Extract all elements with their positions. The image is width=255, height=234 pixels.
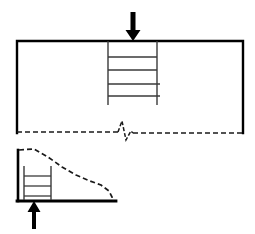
applied-load-arrow-icon <box>126 12 141 41</box>
zigzag-crack-icon <box>118 121 133 140</box>
engineering-diagram <box>0 0 255 234</box>
reaction-force-arrow-icon <box>28 201 41 229</box>
lower-detail-view <box>17 149 116 229</box>
diagram-canvas <box>0 0 255 234</box>
specimen-body-outline <box>17 41 243 133</box>
upper-specimen-view <box>17 12 243 140</box>
stress-column-rungs <box>108 57 160 96</box>
stress-envelope-curve <box>19 149 113 201</box>
lower-stress-column-rungs <box>24 176 51 196</box>
